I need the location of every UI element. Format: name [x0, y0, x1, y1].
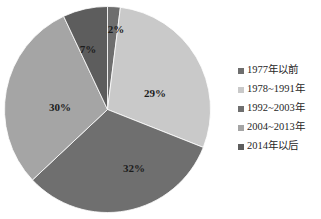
legend-item[interactable]: 2014年以后 [238, 137, 320, 155]
legend-item[interactable]: 1977年以前 [238, 61, 320, 79]
legend-swatch-icon [238, 125, 244, 131]
pie-slice-value-label: 7% [80, 43, 97, 55]
pie-slice-value-label: 2% [108, 23, 125, 35]
pie-slice-value-label: 29% [144, 87, 166, 99]
legend-item-label: 1978~1991年 [247, 83, 305, 95]
legend-swatch-icon [238, 106, 244, 112]
legend-item[interactable]: 1978~1991年 [238, 80, 320, 98]
pie-slice-value-label: 32% [123, 162, 145, 174]
legend-item-label: 2014年以后 [247, 140, 298, 152]
chart-legend: 1977年以前1978~1991年1992~2003年2004~2013年201… [238, 61, 320, 156]
pie-chart-plot-area: 2%29%32%30%7% [4, 6, 211, 213]
legend-item-label: 1977年以前 [247, 64, 298, 76]
legend-swatch-icon [238, 68, 244, 74]
legend-item-label: 2004~2013年 [247, 121, 305, 133]
pie-slice-value-label: 30% [49, 101, 71, 113]
pie-chart-figure: 2%29%32%30%7% 1977年以前1978~1991年1992~2003… [0, 0, 321, 219]
legend-swatch-icon [238, 144, 244, 150]
pie-chart-svg: 2%29%32%30%7% [4, 6, 211, 213]
legend-item[interactable]: 2004~2013年 [238, 118, 320, 136]
legend-item[interactable]: 1992~2003年 [238, 99, 320, 117]
legend-swatch-icon [238, 87, 244, 93]
legend-item-label: 1992~2003年 [247, 102, 305, 114]
pie-slice-group [4, 6, 210, 212]
